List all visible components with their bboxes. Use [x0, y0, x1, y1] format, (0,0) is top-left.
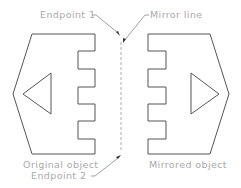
original-object-outline [13, 34, 95, 154]
endpoint1-leader [92, 15, 118, 33]
label-endpoint-1: Endpoint 1 [40, 9, 95, 20]
label-endpoint-2: Endpoint 2 [31, 170, 86, 181]
mirrored-object-outline [148, 34, 229, 154]
label-original-object: Original object [23, 159, 98, 170]
mirrored-triangle-right-arrow [191, 73, 219, 114]
original-triangle-left-arrow [23, 73, 51, 114]
mirror-diagram: Endpoint 1 Mirror line Original object E… [0, 0, 241, 188]
mirror-line-leader [124, 15, 149, 41]
label-mirrored-object: Mirrored object [149, 159, 227, 170]
label-mirror-line: Mirror line [150, 9, 203, 20]
endpoint1-arrowhead-icon [116, 31, 120, 36]
endpoint2-arrowhead-icon [116, 155, 121, 159]
